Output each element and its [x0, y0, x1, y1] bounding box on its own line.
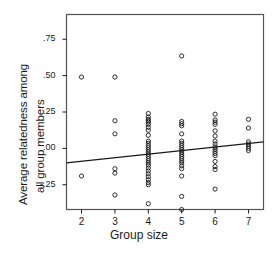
x-axis-label: Group size: [0, 228, 278, 242]
data-point: [180, 174, 184, 178]
scatter-plot-figure: Average relatedness among all group memb…: [0, 0, 278, 255]
data-point: [79, 75, 83, 79]
axis-ticks: [63, 39, 249, 213]
plot-frame: [67, 15, 264, 210]
data-point: [146, 128, 150, 132]
regression-line: [67, 142, 264, 163]
data-points: [79, 54, 250, 212]
data-point: [180, 194, 184, 198]
data-point: [180, 132, 184, 136]
data-point: [146, 133, 150, 137]
data-point: [246, 126, 250, 130]
data-point: [113, 75, 117, 79]
data-point: [213, 167, 217, 171]
data-point: [213, 112, 217, 116]
data-point: [213, 134, 217, 138]
data-point: [213, 129, 217, 133]
data-point: [113, 119, 117, 123]
data-point: [146, 202, 150, 206]
data-point: [213, 187, 217, 191]
data-point: [113, 167, 117, 171]
data-point: [246, 117, 250, 121]
data-point: [180, 167, 184, 171]
data-point: [213, 159, 217, 163]
plot-canvas: [0, 0, 278, 255]
data-point: [113, 193, 117, 197]
data-point: [113, 132, 117, 136]
data-point: [180, 54, 184, 58]
regression-line-segment: [67, 142, 264, 163]
data-point: [113, 171, 117, 175]
plot-frame-rect: [67, 15, 264, 210]
data-point: [79, 174, 83, 178]
